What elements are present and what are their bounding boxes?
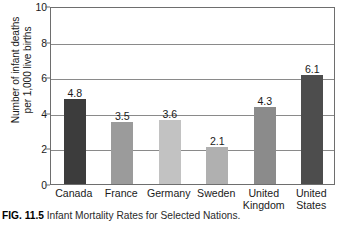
figure-infant-mortality: Number of infant deaths per 1,000 live b… [0, 0, 344, 229]
x-label-united-kingdom: United Kingdom [240, 188, 288, 212]
y-tick-label: 6 [27, 73, 47, 84]
gridline [51, 44, 334, 45]
bar-united-kingdom [254, 107, 276, 184]
y-axis-title-line-1: Number of infant deaths [10, 17, 22, 123]
figure-caption-label: FIG. 11.5 [2, 210, 44, 221]
bar-sweden [206, 147, 228, 184]
x-label-germany: Germany [145, 188, 193, 200]
bar-france [111, 122, 133, 184]
y-tick-label: 0 [27, 180, 47, 191]
y-tick-label: 8 [27, 37, 47, 48]
figure-caption-text: Infant Mortality Rates for Selected Nati… [44, 210, 240, 221]
gridline [51, 150, 334, 151]
bar-value-label: 4.8 [51, 87, 99, 99]
bar-value-label: 6.1 [288, 63, 336, 75]
y-tick-label: 4 [27, 108, 47, 119]
bar-united-states [301, 75, 323, 184]
gridline [51, 79, 334, 80]
bar-value-label: 4.3 [241, 95, 289, 107]
x-label-united-states: United States [288, 188, 336, 212]
bar-germany [159, 120, 181, 184]
y-tick-label: 10 [27, 2, 47, 13]
plot-area: 4.83.53.62.14.36.1 [50, 7, 335, 185]
y-tick-label: 2 [27, 144, 47, 155]
bar-value-label: 3.5 [98, 110, 146, 122]
x-label-canada: Canada [50, 188, 98, 200]
figure-caption: FIG. 11.5 Infant Mortality Rates for Sel… [2, 210, 342, 222]
x-label-france: France [98, 188, 146, 200]
x-label-sweden: Sweden [193, 188, 241, 200]
bar-canada [64, 99, 86, 184]
bar-value-label: 3.6 [146, 108, 194, 120]
bar-value-label: 2.1 [193, 135, 241, 147]
